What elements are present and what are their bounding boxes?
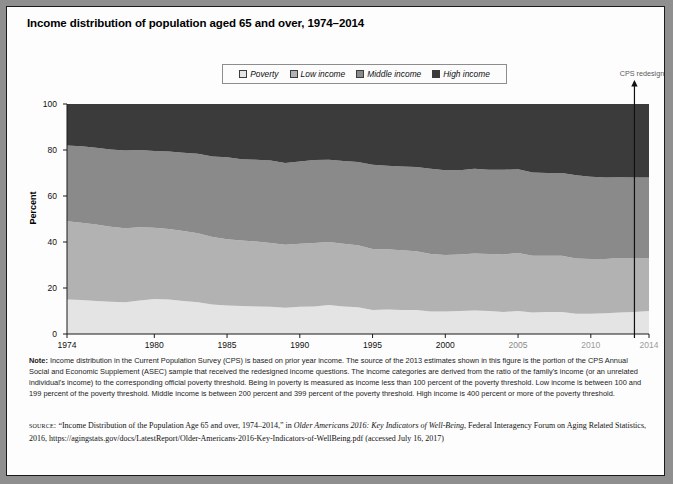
stacked-area-chart bbox=[7, 7, 666, 477]
x-tick-label-2005: 2005 bbox=[498, 340, 538, 350]
x-tick-label-2010: 2010 bbox=[571, 340, 611, 350]
x-tick-label-1974: 1974 bbox=[47, 340, 87, 350]
x-tick-label-2014: 2014 bbox=[629, 340, 669, 350]
y-tick-label-80: 80 bbox=[31, 145, 57, 155]
note-text: Income distribution in the Current Popul… bbox=[29, 356, 641, 398]
x-tick-label-2000: 2000 bbox=[425, 340, 465, 350]
x-tick-label-1980: 1980 bbox=[134, 340, 174, 350]
y-tick-label-20: 20 bbox=[31, 283, 57, 293]
figure-note: Note: Income distribution in the Current… bbox=[29, 355, 647, 399]
source-publication-title: Older Americans 2016: Key Indicators of … bbox=[294, 421, 464, 430]
x-tick-label-1995: 1995 bbox=[353, 340, 393, 350]
cps-redesign-arrow-icon bbox=[631, 80, 637, 86]
x-tick-label-1990: 1990 bbox=[280, 340, 320, 350]
y-tick-label-40: 40 bbox=[31, 237, 57, 247]
y-tick-label-100: 100 bbox=[31, 99, 57, 109]
y-tick-label-60: 60 bbox=[31, 191, 57, 201]
source-label: source: bbox=[29, 421, 56, 430]
x-tick-label-1985: 1985 bbox=[207, 340, 247, 350]
y-axis-label: Percent bbox=[28, 178, 38, 238]
source-line-pre: “Income Distribution of the Population A… bbox=[56, 421, 293, 430]
plot-area: Percent CPS redesign 0204060801001974198… bbox=[7, 7, 666, 477]
note-label: Note: bbox=[29, 356, 48, 365]
figure-container: Income distribution of population aged 6… bbox=[6, 6, 665, 476]
cps-redesign-annotation: CPS redesign bbox=[614, 69, 670, 78]
y-tick-label-0: 0 bbox=[31, 329, 57, 339]
figure-source: source: “Income Distribution of the Popu… bbox=[29, 420, 647, 445]
